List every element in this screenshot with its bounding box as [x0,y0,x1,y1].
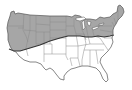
us-map [0,0,132,90]
